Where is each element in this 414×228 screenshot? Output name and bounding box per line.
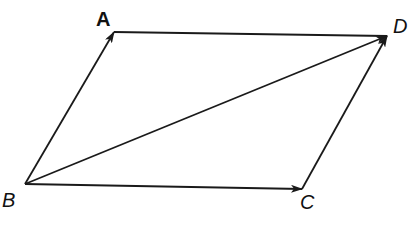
segment-ad [114,32,387,36]
point-label-c: C [300,192,314,212]
vector-cd [302,36,387,189]
vector-ba [25,32,114,184]
point-label-d: D [393,16,407,36]
vector-bd [25,36,387,184]
point-label-a: A [96,9,110,29]
parallelogram-diagram [0,0,414,228]
vector-bc [25,184,302,189]
point-label-b: B [2,190,15,210]
